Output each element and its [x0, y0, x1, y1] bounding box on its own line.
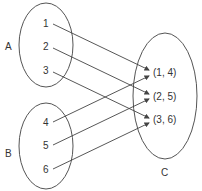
set-c-element: (2, 5) — [153, 91, 176, 102]
set-c-label: C — [161, 167, 168, 178]
set-a-element: 3 — [43, 65, 49, 76]
set-c-element: (3, 6) — [153, 114, 176, 125]
arrow-6-to-36 — [53, 123, 149, 169]
set-a-element: 2 — [43, 41, 49, 52]
set-b-element: 6 — [43, 164, 49, 175]
set-c-element: (1, 4) — [153, 67, 176, 78]
arrow-5-to-25 — [53, 99, 149, 145]
set-a-label: A — [5, 41, 12, 52]
set-b-element: 4 — [43, 117, 49, 128]
set-b-element: 5 — [43, 140, 49, 151]
set-b-label: B — [5, 148, 12, 159]
set-a-element: 1 — [43, 18, 49, 29]
arrow-1-to-14 — [53, 24, 149, 70]
mapping-diagram: A B C 1 2 3 4 5 6 (1, 4) (2, 5) (3, 6) — [0, 0, 202, 191]
